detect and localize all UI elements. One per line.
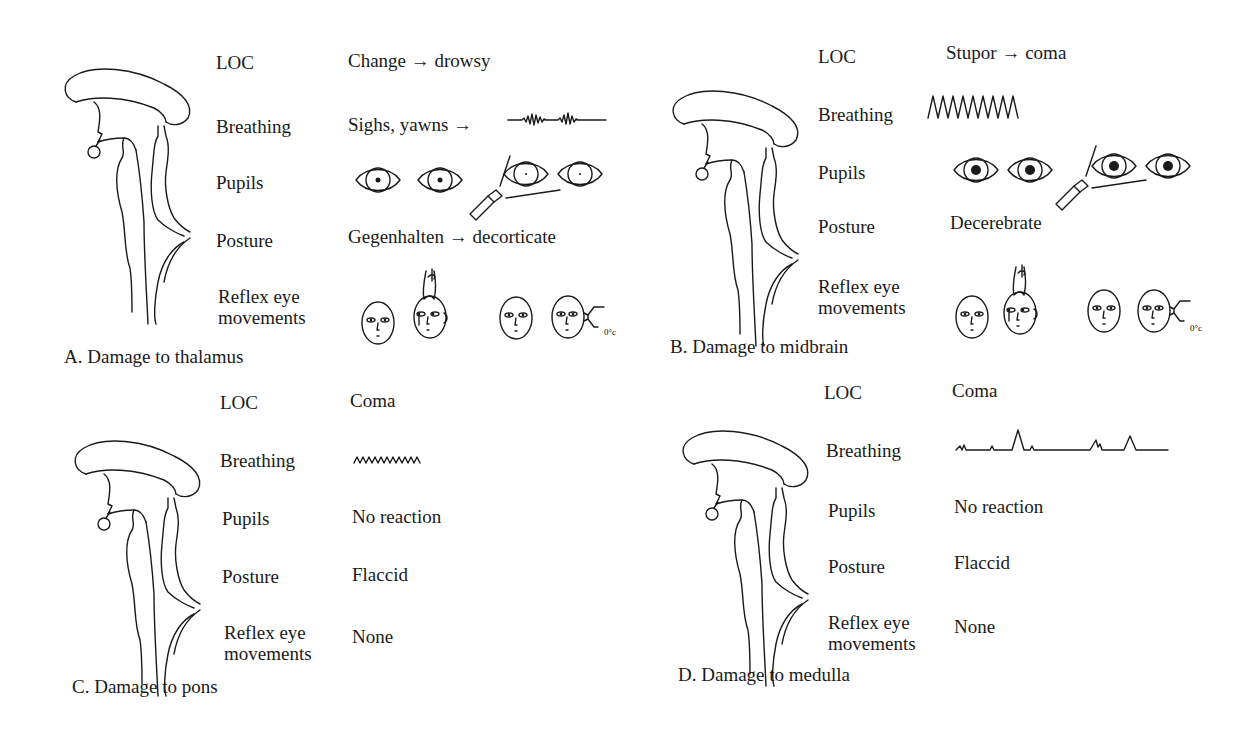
loc-label: LOC [824,382,862,403]
pupils-label: Pupils [818,162,866,183]
cheyne-stokes-wave-icon [508,110,608,130]
shallow-breathing-wave-icon [354,454,424,466]
reflex-label: Reflex eye movements [224,622,312,664]
loc-label: LOC [818,46,856,67]
loc-value: Change → drowsy [348,50,490,71]
pupils-midposition-fixed-icon [948,150,1218,220]
posture-value: Flaccid [954,552,1010,573]
svg-text:0°c: 0°c [604,327,616,337]
posture-label: Posture [828,556,885,577]
reflex-eye-faces-icon: 0°c [350,255,620,365]
pupils-label: Pupils [828,500,876,521]
pupils-label: Pupils [216,172,264,193]
panel-caption: B. Damage to midbrain [670,336,848,358]
posture-label: Posture [216,230,273,251]
pupils-value: No reaction [954,496,1043,517]
reflex-value: None [352,626,393,647]
reflex-label: Reflex eye movements [218,286,306,328]
pupils-small-reactive-icon [350,160,620,230]
reflex-label: Reflex eye movements [818,276,906,318]
posture-value: Gegenhalten → decorticate [348,226,556,247]
panel-caption: A. Damage to thalamus [64,346,243,368]
reflex-value: None [954,616,995,637]
breathing-value: Sighs, yawns → [348,114,472,135]
loc-value: Stupor → coma [946,42,1066,63]
pupils-value: No reaction [352,506,441,527]
posture-value: Decerebrate [950,212,1042,233]
posture-label: Posture [222,566,279,587]
loc-value: Coma [350,390,395,411]
ataxic-breathing-wave-icon [956,428,1170,452]
loc-label: LOC [220,392,258,413]
brain-sagittal-icon [662,84,812,354]
reflex-eye-faces-icon: 0°c [948,245,1218,355]
svg-text:0°c: 0°c [1190,323,1202,333]
brain-sagittal-icon [54,62,204,332]
breathing-label: Breathing [220,450,295,471]
loc-label: LOC [216,52,254,73]
panel-caption: D. Damage to medulla [678,664,850,686]
breathing-label: Breathing [818,104,893,125]
loc-value: Coma [952,380,997,401]
panel-caption: C. Damage to pons [72,676,218,698]
pupils-label: Pupils [222,508,270,529]
brain-sagittal-icon [64,434,214,704]
posture-value: Flaccid [352,564,408,585]
breathing-label: Breathing [216,116,291,137]
reflex-label: Reflex eye movements [828,612,916,654]
breathing-label: Breathing [826,440,901,461]
posture-label: Posture [818,216,875,237]
brain-sagittal-icon [672,424,822,694]
hyperventilation-wave-icon [926,94,1026,120]
